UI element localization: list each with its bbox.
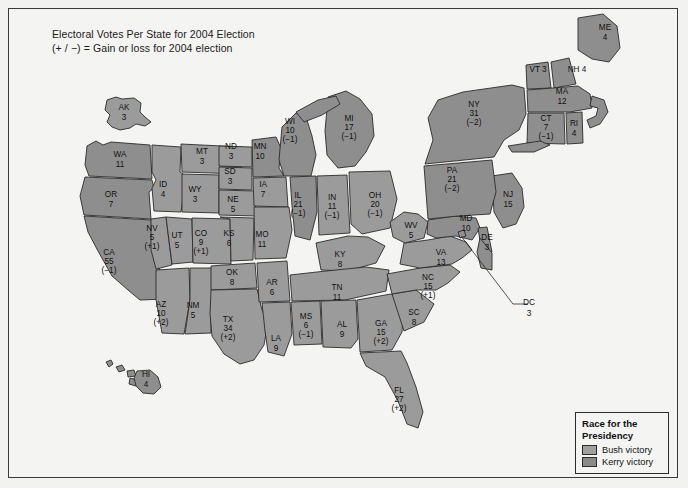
dc-leader-line bbox=[461, 236, 528, 304]
dc-callout: DC 3 bbox=[516, 297, 542, 318]
legend-title: Race for the Presidency bbox=[582, 418, 662, 441]
legend-label-kerry: Kerry victory bbox=[602, 457, 653, 467]
dc-callout-abbr: DC bbox=[516, 297, 542, 308]
state-ID[interactable] bbox=[152, 145, 186, 212]
state-label-VA: VA13 bbox=[436, 249, 447, 267]
legend-row-kerry[interactable]: Kerry victory bbox=[582, 457, 662, 467]
screenshot-root: Electoral Votes Per State for 2004 Elect… bbox=[0, 0, 688, 488]
state-longisland bbox=[508, 141, 550, 152]
leader-lines-group bbox=[461, 236, 528, 304]
state-AK[interactable] bbox=[105, 97, 151, 130]
state-shapes-group bbox=[80, 14, 620, 428]
state-label-TN: TN11 bbox=[332, 284, 343, 302]
legend-title-line2: Presidency bbox=[582, 430, 662, 442]
legend-label-bush: Bush victory bbox=[602, 445, 652, 455]
state-ME[interactable] bbox=[578, 14, 620, 62]
state-label-VT: VT 3 bbox=[529, 65, 547, 74]
state-PA[interactable] bbox=[424, 160, 496, 219]
legend-swatch-kerry bbox=[582, 457, 597, 467]
state-label-MD: MD10 bbox=[460, 215, 473, 233]
state-label-NJ: NJ15 bbox=[503, 191, 513, 209]
dc-callout-votes: 3 bbox=[516, 308, 542, 319]
legend-title-line1: Race for the bbox=[582, 418, 662, 430]
state-label-NH: NH 4 bbox=[568, 65, 587, 74]
state-label-MN: MN10 bbox=[254, 143, 267, 161]
state-HI-island1 bbox=[106, 360, 113, 367]
legend-swatch-bush bbox=[582, 445, 597, 455]
state-HI-island2 bbox=[116, 365, 125, 372]
state-FL[interactable] bbox=[360, 351, 423, 428]
legend-row-bush[interactable]: Bush victory bbox=[582, 445, 662, 455]
state-KY[interactable] bbox=[316, 236, 385, 271]
map-legend: Race for the Presidency Bush victory Ker… bbox=[575, 412, 669, 474]
